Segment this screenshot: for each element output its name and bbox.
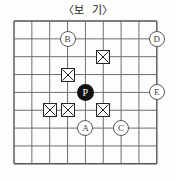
x-mark-3[interactable] bbox=[43, 103, 57, 117]
x-glyph-icon bbox=[62, 69, 74, 81]
x-glyph-icon bbox=[97, 104, 109, 116]
x-glyph-icon bbox=[44, 104, 56, 116]
x-mark-2[interactable] bbox=[61, 68, 75, 82]
x-mark-4[interactable] bbox=[61, 103, 75, 117]
label-circle-d[interactable]: D bbox=[149, 31, 165, 47]
x-glyph-icon bbox=[97, 51, 109, 63]
diagram-page: 〈보 기〉 BDEACP bbox=[0, 0, 176, 181]
label-circle-b[interactable]: B bbox=[60, 31, 76, 47]
black-stone-p[interactable]: P bbox=[77, 84, 94, 101]
x-glyph-icon bbox=[62, 104, 74, 116]
x-mark-5[interactable] bbox=[96, 103, 110, 117]
x-mark-1[interactable] bbox=[96, 50, 110, 64]
go-board[interactable]: BDEACP bbox=[0, 0, 176, 181]
